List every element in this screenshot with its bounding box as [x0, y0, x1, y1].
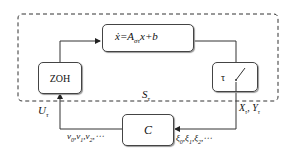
y-sub: τ [258, 109, 260, 115]
v2-sub: 2 [90, 137, 93, 143]
v0-sub: 0 [71, 137, 74, 143]
plant-block: ẋ=Aστx+b [102, 24, 194, 52]
xy-signal-label: Xτ, Yτ [239, 102, 260, 115]
u-sub: τ [46, 111, 49, 119]
plant-equation: ẋ=Aστx+b [115, 30, 158, 45]
u-signal-label: Uτ [38, 104, 48, 119]
sampler-block: τ [212, 62, 258, 92]
v-sequence-label: v0,v1,v2,⋯ [67, 131, 104, 143]
u-main: U [38, 104, 46, 116]
controller-block: C [122, 114, 174, 146]
controller-to-zoh-line [60, 94, 122, 129]
eq-mid: =A [120, 30, 134, 42]
region-label: Sτ [142, 88, 150, 103]
region-label-sub: τ [148, 95, 151, 103]
zoh-block: ZOH [38, 62, 82, 94]
sampler-label: τ [221, 72, 225, 83]
plant-to-sampler-line [194, 41, 236, 62]
xi2-sub: 2 [198, 139, 201, 145]
v-ellipsis: ⋯ [95, 131, 104, 141]
xi-ellipsis: ⋯ [203, 133, 212, 143]
eq-rhs: x+b [140, 30, 158, 42]
xi1-sub: 1 [189, 139, 192, 145]
zoh-to-plant-line [60, 41, 100, 62]
xi0-sub: 0 [180, 139, 183, 145]
xi-sequence-label: ξ0,ξ1,ξ2,⋯ [176, 133, 212, 145]
v1-sub: 1 [80, 137, 83, 143]
controller-label: C [144, 123, 152, 138]
zoh-label: ZOH [50, 73, 71, 84]
